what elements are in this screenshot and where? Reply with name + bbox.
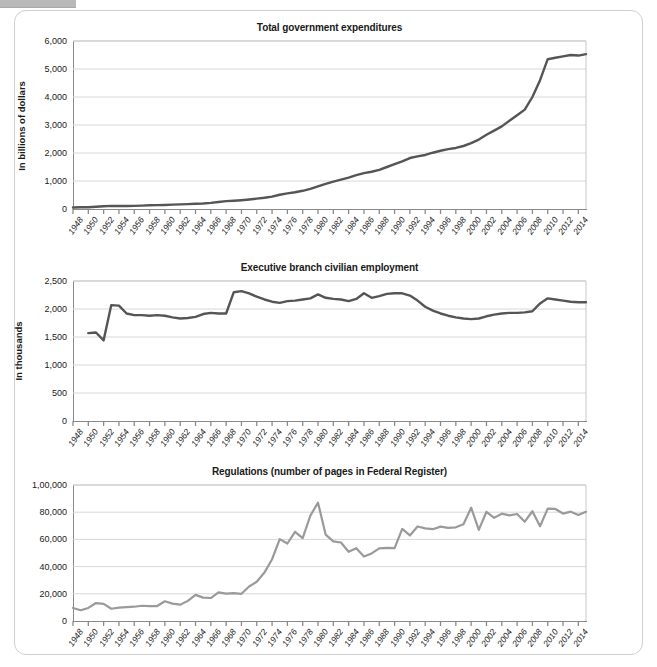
x-tick-label: 2010 bbox=[541, 627, 560, 648]
x-tick-label: 1996 bbox=[434, 215, 453, 236]
x-tick-label: 1994 bbox=[418, 215, 437, 236]
x-tick-label: 1998 bbox=[449, 215, 468, 236]
x-tick-label: 1950 bbox=[81, 427, 100, 448]
y-tick-label: 0 bbox=[62, 616, 67, 626]
y-tick-label: 5,000 bbox=[44, 64, 67, 74]
x-tick-label: 1988 bbox=[372, 627, 391, 648]
chart-panel-executive-branch-civilian-employment: Executive branch civilian employment In … bbox=[15, 255, 644, 459]
x-tick-label: 2002 bbox=[479, 627, 498, 648]
x-tick-label: 1948 bbox=[66, 627, 85, 648]
x-tick-label: 2008 bbox=[525, 215, 544, 236]
x-tick-label: 1984 bbox=[342, 427, 361, 448]
series-line bbox=[73, 54, 586, 207]
y-tick-label: 3,000 bbox=[44, 120, 67, 130]
x-tick-label: 1958 bbox=[143, 215, 162, 236]
x-tick-label: 1960 bbox=[158, 627, 177, 648]
plot-area-3 bbox=[73, 485, 587, 622]
x-tick-label: 2012 bbox=[556, 215, 575, 236]
x-tick-label: 1964 bbox=[189, 215, 208, 236]
y-tick-label: 1,500 bbox=[44, 332, 67, 342]
y-axis-ticks-1: 01,0002,0003,0004,0005,0006,000 bbox=[15, 35, 72, 217]
x-tick-label: 1962 bbox=[173, 427, 192, 448]
x-tick-label: 1964 bbox=[189, 427, 208, 448]
x-tick-label: 1966 bbox=[204, 427, 223, 448]
x-tick-label: 1954 bbox=[112, 627, 131, 648]
x-tick-label: 2014 bbox=[571, 427, 590, 448]
x-tick-label: 1952 bbox=[97, 427, 116, 448]
x-tick-label: 1958 bbox=[143, 427, 162, 448]
x-tick-label: 1960 bbox=[158, 427, 177, 448]
x-tick-label: 1986 bbox=[357, 215, 376, 236]
x-tick-label: 1998 bbox=[449, 627, 468, 648]
x-tick-label: 1956 bbox=[127, 627, 146, 648]
x-tick-label: 1980 bbox=[311, 627, 330, 648]
x-tick-label: 1948 bbox=[66, 427, 85, 448]
x-tick-label: 2006 bbox=[510, 215, 529, 236]
y-axis-ticks-2: 05001,0001,5002,0002,500 bbox=[15, 275, 72, 427]
x-tick-label: 2010 bbox=[541, 427, 560, 448]
chart-title-2: Executive branch civilian employment bbox=[15, 255, 644, 275]
y-tick-label: 2,000 bbox=[44, 304, 67, 314]
x-tick-label: 1964 bbox=[189, 627, 208, 648]
x-tick-label: 1984 bbox=[342, 215, 361, 236]
chart-title-1: Total government expenditures bbox=[15, 15, 644, 35]
y-tick-label: 20,000 bbox=[39, 589, 67, 599]
y-tick-label: 0 bbox=[62, 204, 67, 214]
x-tick-label: 1978 bbox=[296, 627, 315, 648]
x-tick-label: 2004 bbox=[495, 427, 514, 448]
x-tick-label: 1966 bbox=[204, 215, 223, 236]
x-tick-label: 1970 bbox=[234, 427, 253, 448]
x-tick-label: 1986 bbox=[357, 427, 376, 448]
y-tick-label: 0 bbox=[62, 416, 67, 426]
x-tick-label: 1952 bbox=[97, 627, 116, 648]
y-tick-label: 6,000 bbox=[44, 36, 67, 46]
x-tick-label: 2006 bbox=[510, 627, 529, 648]
y-tick-label: 80,000 bbox=[39, 507, 67, 517]
cut-off-header-fragment bbox=[0, 0, 76, 8]
x-tick-label: 1974 bbox=[265, 627, 284, 648]
x-tick-label: 1954 bbox=[112, 427, 131, 448]
x-tick-label: 1972 bbox=[250, 627, 269, 648]
chart-panel-regulations-federal-register-pages: Regulations (number of pages in Federal … bbox=[15, 459, 644, 655]
x-tick-label: 1990 bbox=[388, 627, 407, 648]
x-tick-label: 1972 bbox=[250, 427, 269, 448]
x-tick-label: 2002 bbox=[479, 427, 498, 448]
x-tick-label: 1970 bbox=[234, 215, 253, 236]
x-tick-label: 1992 bbox=[403, 427, 422, 448]
x-tick-label: 1948 bbox=[66, 215, 85, 236]
x-tick-label: 2012 bbox=[556, 627, 575, 648]
x-tick-label: 2004 bbox=[495, 215, 514, 236]
x-tick-label: 2014 bbox=[571, 627, 590, 648]
x-tick-label: 1996 bbox=[434, 427, 453, 448]
plot-wrap-1: In billions of dollars 01,0002,0003,0004… bbox=[15, 35, 644, 217]
x-tick-label: 1984 bbox=[342, 627, 361, 648]
x-tick-label: 1950 bbox=[81, 215, 100, 236]
x-tick-label: 1960 bbox=[158, 215, 177, 236]
x-tick-label: 1968 bbox=[219, 215, 238, 236]
x-tick-label: 1980 bbox=[311, 215, 330, 236]
x-tick-label: 2000 bbox=[464, 215, 483, 236]
x-tick-label: 1968 bbox=[219, 627, 238, 648]
x-tick-label: 1986 bbox=[357, 627, 376, 648]
y-tick-label: 60,000 bbox=[39, 534, 67, 544]
x-tick-label: 1950 bbox=[81, 627, 100, 648]
x-tick-label: 1962 bbox=[173, 627, 192, 648]
x-tick-label: 1988 bbox=[372, 215, 391, 236]
x-tick-label: 1992 bbox=[403, 627, 422, 648]
figure-frame: Total government expenditures In billion… bbox=[14, 10, 643, 655]
x-tick-label: 1978 bbox=[296, 215, 315, 236]
x-tick-label: 2000 bbox=[464, 627, 483, 648]
y-axis-ticks-3: 020,00040,00060,00080,0001,00,000 bbox=[15, 479, 72, 627]
x-tick-label: 1954 bbox=[112, 215, 131, 236]
y-tick-label: 40,000 bbox=[39, 562, 67, 572]
x-tick-label: 1958 bbox=[143, 627, 162, 648]
x-tick-label: 1976 bbox=[280, 215, 299, 236]
chart-title-3: Regulations (number of pages in Federal … bbox=[15, 459, 644, 479]
x-tick-label: 1976 bbox=[280, 627, 299, 648]
plot-wrap-3: 020,00040,00060,00080,0001,00,000 194819… bbox=[15, 479, 644, 627]
x-tick-label: 1956 bbox=[127, 215, 146, 236]
x-tick-label: 1994 bbox=[418, 427, 437, 448]
x-tick-label: 1968 bbox=[219, 427, 238, 448]
x-tick-label: 2008 bbox=[525, 427, 544, 448]
x-tick-label: 1970 bbox=[234, 627, 253, 648]
